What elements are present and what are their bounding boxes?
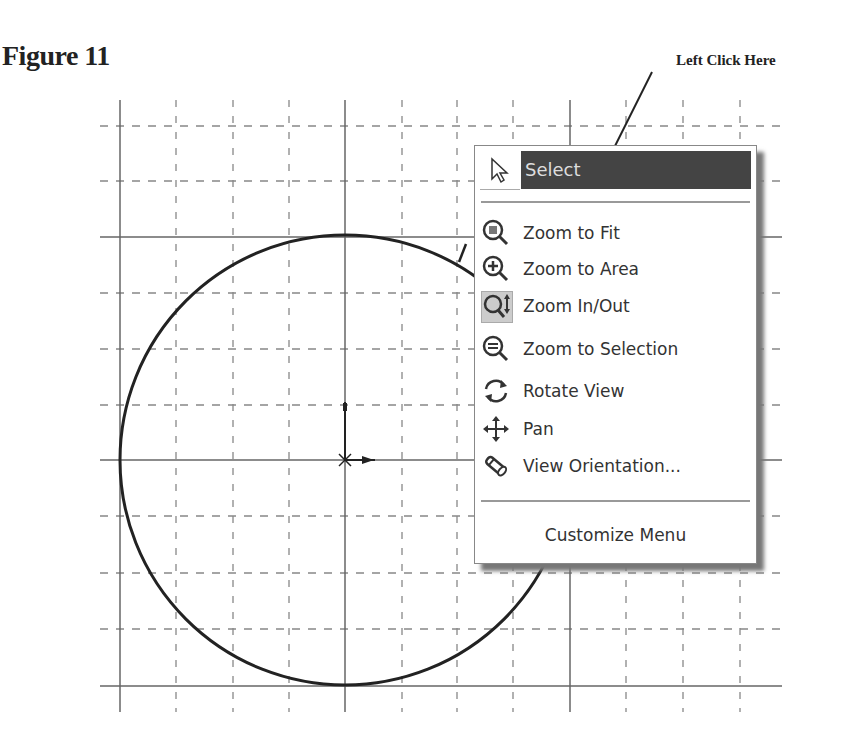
context-menu: Select Zoom to Fit Zoom to Area Zoom In/… <box>474 145 757 564</box>
rotate-view-icon <box>481 376 511 406</box>
menu-item-label: Zoom to Area <box>523 252 639 286</box>
menu-item-label: Zoom to Fit <box>523 216 620 250</box>
cursor-arrow-icon <box>480 151 520 190</box>
zoom-to-fit-icon <box>481 218 511 248</box>
origin-marker <box>339 402 375 466</box>
menu-item-select[interactable]: Select <box>480 151 751 189</box>
menu-item-label: Select <box>521 151 751 189</box>
menu-separator <box>481 201 750 203</box>
menu-item-label: Pan <box>523 412 554 446</box>
zoom-to-area-icon <box>481 254 511 284</box>
menu-separator <box>481 500 750 502</box>
menu-item-customize-menu[interactable]: Customize Menu <box>475 518 756 552</box>
radius-dimension-mark <box>459 244 466 262</box>
zoom-to-selection-icon <box>481 334 511 364</box>
menu-item-zoom-in-out[interactable]: Zoom In/Out <box>481 289 750 323</box>
menu-item-pan[interactable]: Pan <box>481 412 750 446</box>
menu-item-label: Rotate View <box>523 374 624 408</box>
menu-item-rotate-view[interactable]: Rotate View <box>481 374 750 408</box>
menu-item-label: Zoom to Selection <box>523 332 678 366</box>
pan-icon <box>481 414 511 444</box>
menu-item-label: Zoom In/Out <box>523 289 630 323</box>
menu-item-label: View Orientation... <box>523 449 681 483</box>
view-orientation-icon <box>481 451 511 481</box>
zoom-in-out-icon <box>481 291 513 323</box>
menu-item-zoom-to-area[interactable]: Zoom to Area <box>481 252 750 286</box>
menu-item-view-orientation[interactable]: View Orientation... <box>481 449 750 483</box>
menu-item-zoom-to-selection[interactable]: Zoom to Selection <box>481 332 750 366</box>
menu-item-zoom-to-fit[interactable]: Zoom to Fit <box>481 216 750 250</box>
